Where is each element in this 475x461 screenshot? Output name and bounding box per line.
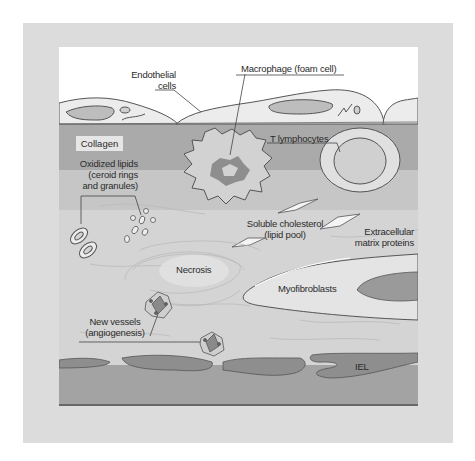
label-oxidized-lipids: Oxidized lipids (ceroid rings and granul… [66,158,138,191]
label-myofibroblasts: Myofibroblasts [278,283,336,294]
t-lymphocyte [320,128,400,192]
label-endothelial-cells: Endothelial cells [116,69,176,91]
label-t-lymphocytes: T lymphocytes [270,133,328,144]
label-soluble-cholesterol: Soluble cholesterol (lipid pool) [240,218,330,240]
label-collagen: Collagen [76,136,123,151]
label-iel: IEL [355,361,369,372]
label-extracellular-matrix: Extracellular matrix proteins [340,226,414,248]
label-new-vessels: New vessels (angiogenesis) [82,316,148,338]
label-macrophage: Macrophage (foam cell) [241,63,336,74]
label-necrosis: Necrosis [176,264,211,275]
